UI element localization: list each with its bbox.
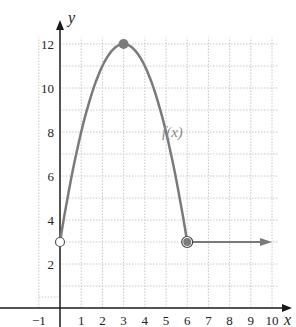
x-tick-label: 9 <box>248 313 255 327</box>
x-tick-label: 7 <box>205 313 212 327</box>
y-tick-label: 2 <box>48 257 55 272</box>
y-axis-label: y <box>66 9 76 27</box>
x-tick-label: 4 <box>142 313 149 327</box>
grid <box>39 37 279 308</box>
function-label: f(x) <box>162 124 183 141</box>
tick-labels: −11234567891024681012 <box>32 37 279 327</box>
x-tick-label: 5 <box>163 313 170 327</box>
x-tick-label: 6 <box>184 313 191 327</box>
x-tick-label: 10 <box>266 313 279 327</box>
max-point <box>119 39 129 49</box>
y-tick-label: 10 <box>41 81 54 96</box>
y-tick-label: 12 <box>41 37 54 52</box>
open-point <box>56 238 65 247</box>
y-tick-label: 4 <box>48 213 55 228</box>
x-tick-label: 1 <box>78 313 85 327</box>
y-tick-label: 8 <box>48 125 55 140</box>
x-axis-label: x <box>283 311 291 327</box>
y-tick-label: 6 <box>48 169 55 184</box>
chart: −11234567891024681012 x y f(x) <box>0 0 296 327</box>
x-tick-label: 3 <box>120 313 127 327</box>
x-tick-label: 2 <box>99 313 106 327</box>
x-tick-label: 8 <box>226 313 233 327</box>
closed-point <box>183 238 191 246</box>
x-tick-label: −1 <box>32 313 46 327</box>
